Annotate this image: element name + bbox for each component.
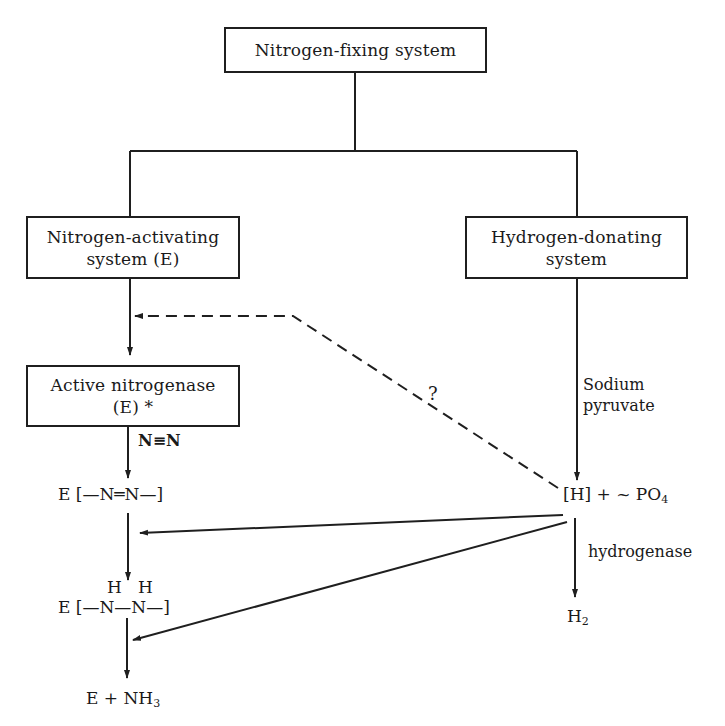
h2-subscript: 2	[582, 615, 589, 628]
connector-lines	[0, 0, 725, 726]
box-label-line1: Active nitrogenase	[50, 374, 215, 396]
hydrogen-phosphate-pool: [H] + ~ PO4	[563, 484, 668, 506]
box-active-nitrogenase: Active nitrogenase (E) *	[26, 365, 240, 427]
pool-main: [H] + ~ PO	[563, 484, 661, 504]
dinitrogen-label: N≡N	[138, 431, 181, 451]
box-label: Nitrogen-fixing system	[255, 39, 457, 61]
enzyme-hydrazine-complex: E [—N—N—]	[58, 597, 170, 617]
sodium-label: Sodium	[583, 375, 644, 395]
h2-main: H	[567, 606, 582, 626]
box-label-line2: system (E)	[86, 248, 179, 270]
enzyme-diazene-complex: E [—N═N—]	[58, 484, 163, 504]
hydrogenase-label: hydrogenase	[588, 542, 692, 562]
product-main: E + NH	[86, 688, 153, 708]
arrow-h-to-diazene-step	[140, 515, 563, 533]
pool-subscript: 4	[661, 493, 668, 506]
box-label-line1: Nitrogen-activating	[47, 226, 220, 248]
box-label-line2: (E) *	[113, 396, 154, 418]
nitrogen-fixation-diagram: Nitrogen-fixing system Nitrogen-activati…	[0, 0, 725, 726]
pyruvate-label: pyruvate	[583, 396, 655, 416]
box-nitrogen-activating-system: Nitrogen-activating system (E)	[26, 216, 240, 279]
question-mark-label: ?	[428, 384, 438, 404]
box-hydrogen-donating-system: Hydrogen-donating system	[465, 216, 688, 279]
arrow-h-to-hydrazine-step	[133, 522, 567, 640]
product-subscript: 3	[153, 697, 160, 710]
hydrogen-atoms-label: H H	[107, 577, 153, 597]
box-label-line2: system	[546, 248, 607, 270]
box-nitrogen-fixing-system: Nitrogen-fixing system	[224, 27, 487, 73]
product-enzyme-ammonia: E + NH3	[86, 688, 160, 710]
hydrogen-gas-product: H2	[567, 606, 589, 628]
box-label-line1: Hydrogen-donating	[491, 226, 662, 248]
